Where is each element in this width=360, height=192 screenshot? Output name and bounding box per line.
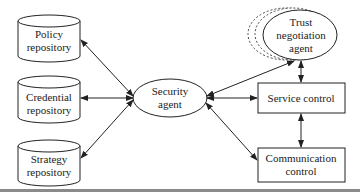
communication-control-node: Communication control (258, 148, 345, 182)
policy-repository-node: Policy repository (18, 15, 80, 62)
edge-security-communication (206, 103, 257, 160)
strategy-repository-node: Strategy repository (18, 140, 80, 186)
policy-repository-label-1: Policy (35, 28, 64, 40)
service-control-label: Service control (268, 92, 335, 104)
communication-control-label-1: Communication (266, 152, 337, 164)
edge-security-strategy (81, 100, 133, 158)
service-control-node: Service control (258, 83, 345, 113)
credential-repository-node: Credential repository (18, 76, 80, 123)
trust-negotiation-agent-node: Trust negotiation agent (248, 8, 337, 60)
strategy-repository-label-1: Strategy (31, 153, 68, 165)
edge-security-policy (81, 40, 133, 96)
communication-control-label-2: control (285, 165, 316, 177)
policy-repository-label-2: repository (27, 41, 72, 53)
trust-negotiation-agent-label-1: Trust (290, 16, 313, 28)
strategy-repository-label-2: repository (27, 166, 72, 178)
security-agent-label-2: agent (158, 98, 182, 110)
credential-repository-label-2: repository (27, 104, 72, 116)
trust-negotiation-agent-label-3: agent (289, 42, 313, 54)
trust-negotiation-agent-label-2: negotiation (276, 29, 326, 41)
bottom-border (0, 189, 360, 192)
security-agent-label-1: Security (152, 85, 189, 97)
security-agent-node: Security agent (133, 79, 207, 117)
credential-repository-label-1: Credential (26, 91, 72, 103)
diagram-canvas: Policy repository Credential repository … (0, 0, 360, 192)
